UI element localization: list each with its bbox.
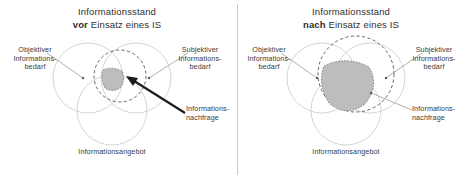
label-demand-after: Informations- nachfrage [412,105,468,122]
leader-dot-demand-after [370,92,372,94]
label-objective-before: Objektiver Informations- bedarf [4,46,66,72]
label-supply-before: Informationsangebot [57,148,167,157]
leader-dot-objective-after [316,77,318,79]
label-supply-after: Informationsangebot [291,148,401,157]
label-objective-before-l3: bedarf [25,62,46,71]
leader-dot-subjective-after [385,77,387,79]
arrow-line-demand-before [131,79,185,113]
panel-before: Informationsstand vor Einsatz eines IS O… [0,0,234,179]
leader-dot-objective-before [82,77,84,79]
label-demand-before-l2: nachfrage [186,113,219,122]
label-objective-after: Objektiver Informations- bedarf [238,46,300,72]
leader-dot-subjective-before [148,77,150,79]
label-demand-after-l2: nachfrage [412,113,445,122]
label-subjective-after: Subjektiver Informations- bedarf [402,46,466,72]
shaded-intersection-after [321,61,373,111]
panel-after: Informationsstand nach Einsatz eines IS … [234,0,468,179]
label-objective-after-l3: bedarf [259,62,280,71]
label-subjective-before: Subjektiver Informations- bedarf [168,46,232,72]
leader-line-demand-after [371,93,412,110]
figure-canvas: Informationsstand vor Einsatz eines IS O… [0,0,468,179]
label-subjective-before-l3: bedarf [190,62,211,71]
label-subjective-after-l3: bedarf [424,62,445,71]
shaded-intersection-before [102,68,124,90]
